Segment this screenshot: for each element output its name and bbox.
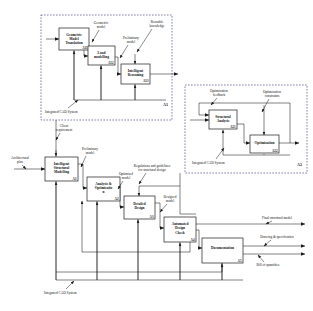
- leader-bill-of-quantities: [258, 255, 264, 262]
- box-main-a4-id: A4: [191, 238, 195, 242]
- label-client-requirement-2: requirement: [56, 128, 72, 132]
- leader-reusable-knowledge: [137, 29, 152, 52]
- label-main-mechanism: Integrated CAD System: [44, 291, 77, 295]
- box-main-a2-id: A2: [115, 197, 119, 201]
- box-main-a2-title-3: n: [103, 190, 105, 194]
- label-regulations-2: for structural design: [138, 168, 166, 172]
- flow-main-a1-to-a2: [78, 164, 87, 188]
- box-main-a3-id: A3: [150, 215, 154, 219]
- label-optimised-model-2: model: [122, 176, 131, 180]
- leader-client-requirement: [56, 133, 60, 140]
- leader-main-mechanism: [66, 281, 74, 289]
- leader-designed-model: [160, 204, 167, 212]
- label-a1-mechanism: Integrated CAD System: [45, 110, 78, 114]
- box-a12-title-2: modelling: [94, 55, 109, 59]
- box-a22-id: A22: [272, 149, 278, 153]
- module-a1-id: A1: [163, 102, 168, 107]
- diagram-svg: Geometric Model Translation A11 Load mod…: [0, 0, 313, 311]
- label-final-structural-model: Final structural model: [262, 216, 292, 220]
- flow-a21-to-a22: [237, 124, 250, 143]
- leader-preliminary-model: [120, 45, 128, 58]
- box-a12-id: A12: [108, 61, 114, 65]
- label-geometric-model-2: model: [97, 25, 106, 29]
- label-optimization-constraints-2: constraints: [265, 94, 280, 98]
- box-a21-id: A21: [230, 125, 236, 129]
- flow-regulations-bus: [180, 173, 196, 214]
- label-main-preliminary-model-2: model: [86, 151, 95, 155]
- box-main-a5-id: A5: [238, 259, 242, 263]
- flow-main-a4-to-a5: [196, 230, 202, 248]
- box-a11-id: A11: [82, 46, 88, 50]
- leader-a1-mechanism: [68, 100, 78, 108]
- label-drawing-specification: Drawing & specification: [260, 235, 294, 239]
- label-designed-model-2: model: [166, 199, 175, 203]
- label-preliminary-model-2: model: [127, 40, 136, 44]
- flow-main-a3-to-a4: [155, 203, 164, 228]
- flow-a12-to-a13: [115, 57, 121, 74]
- box-main-a5-title-1: Documentation: [211, 246, 234, 250]
- box-main-a1-title-3: Modelling: [54, 170, 69, 174]
- module-frame-a2: [185, 85, 307, 173]
- leader-optimization-constraints: [262, 99, 269, 112]
- flow-a5-to-mech-bus: [56, 263, 222, 272]
- leader-geometric-model: [92, 30, 99, 42]
- box-a21-title-2: Analysis: [217, 119, 230, 123]
- label-a2-mechanism: Integrated CAD System: [192, 161, 225, 165]
- module-a2-id: A2: [297, 162, 302, 167]
- box-main-a4-title-3: Check: [175, 231, 185, 235]
- leader-optimization-feedback: [211, 98, 217, 105]
- leader-regulations: [139, 173, 146, 184]
- leader-main-preliminary-model: [81, 156, 86, 167]
- label-bill-of-quantities: Bill of quantities: [257, 263, 280, 267]
- box-a13-id: A13: [143, 79, 149, 83]
- label-optimization-feedback-2: feedback: [213, 93, 226, 97]
- box-main-a3-title-2: Design: [134, 206, 144, 210]
- leader-final-structural-model: [266, 221, 272, 224]
- label-architectural-plan-2: plan: [17, 160, 23, 164]
- leader-drawing-specification: [264, 240, 271, 246]
- label-reusable-knowledge-2: knowledge: [150, 24, 165, 28]
- box-main-a1-id: A1: [73, 177, 77, 181]
- box-a22-title-1: Optimization: [255, 141, 275, 145]
- box-a13-title-2: Reasoning: [128, 73, 144, 77]
- flow-main-a2-to-a3: [120, 184, 124, 207]
- leader-architectural-plan: [22, 165, 26, 169]
- idef0-diagram-canvas: Geometric Model Translation A11 Load mod…: [0, 0, 313, 311]
- box-a11-title-3: Translation: [65, 41, 82, 45]
